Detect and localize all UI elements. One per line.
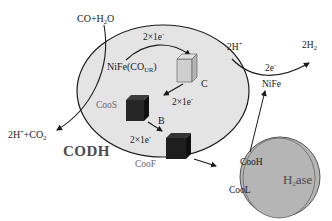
co-h2o-label: CO+H2O bbox=[77, 14, 114, 26]
transfer-label-3: 2×1e- bbox=[130, 134, 151, 146]
h2ase-site-label: NiFe bbox=[262, 80, 281, 90]
cooF-label: CooF bbox=[135, 160, 156, 170]
cluster-b-cube bbox=[126, 95, 149, 121]
cluster-b-label: B bbox=[158, 116, 165, 126]
transfer-arrow-4 bbox=[194, 159, 216, 166]
cluster-c-cube bbox=[177, 54, 197, 82]
h2ase-reaction-left: 2H+ bbox=[227, 41, 242, 53]
cooS-label: CooS bbox=[96, 101, 117, 111]
cooH-label: CooH bbox=[240, 158, 263, 168]
h2ase-reaction-right: 2H2 bbox=[302, 41, 317, 52]
transfer-label-1: 2×1e- bbox=[143, 31, 164, 43]
transfer-label-2: 2×1e- bbox=[172, 96, 193, 108]
h2ase-title: H2ase bbox=[283, 173, 312, 188]
active-site-label: NiFe(COUR) bbox=[107, 62, 157, 74]
h-co2-label: 2H++CO2 bbox=[8, 129, 46, 142]
codh-title: CODH bbox=[63, 144, 110, 159]
electrons-label: 2e- bbox=[265, 62, 276, 74]
cluster-c-label: C bbox=[201, 79, 208, 89]
diagram-shapes bbox=[0, 0, 332, 221]
cooL-label: CooL bbox=[229, 186, 251, 196]
cooF-cube bbox=[166, 133, 191, 159]
